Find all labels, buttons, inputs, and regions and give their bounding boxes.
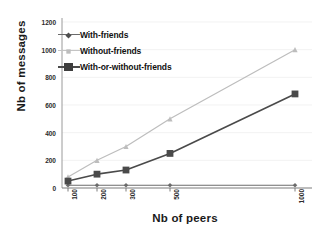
legend-item-with-friends[interactable]: With-friends bbox=[58, 28, 172, 41]
legend-label: With-friends bbox=[80, 30, 128, 40]
series-with-friends bbox=[66, 183, 298, 188]
x-axis-title: Nb of peers bbox=[60, 212, 310, 224]
data-point bbox=[167, 116, 172, 121]
data-point bbox=[94, 171, 101, 178]
data-point bbox=[293, 183, 298, 188]
series-with-or-without-friends bbox=[65, 91, 299, 185]
data-point bbox=[167, 150, 174, 157]
data-point bbox=[65, 178, 72, 185]
legend-marker-diamond-icon bbox=[58, 29, 80, 40]
series-line bbox=[68, 94, 295, 181]
chart-legend: With-friends Without-friends With-or-wit… bbox=[58, 28, 172, 76]
legend-marker-triangle-icon bbox=[58, 45, 80, 56]
legend-item-with-or-without-friends[interactable]: With-or-without-friends bbox=[58, 60, 172, 73]
data-point bbox=[292, 91, 299, 98]
legend-label: Without-friends bbox=[80, 46, 141, 56]
legend-label: With-or-without-friends bbox=[80, 62, 172, 72]
data-point bbox=[124, 183, 129, 188]
data-point bbox=[95, 183, 100, 188]
data-point bbox=[168, 183, 173, 188]
data-point bbox=[123, 167, 130, 174]
legend-item-without-friends[interactable]: Without-friends bbox=[58, 44, 172, 57]
legend-marker-square-icon bbox=[58, 61, 80, 72]
chart-figure: Nb of messages 0 200 400 600 800 1000 12… bbox=[0, 0, 320, 235]
